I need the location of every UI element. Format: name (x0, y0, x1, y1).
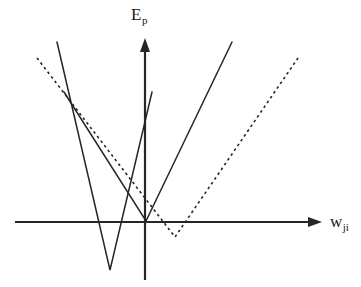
x-axis-label: wji (330, 213, 349, 233)
y-axis-label-subscript: p (142, 14, 148, 26)
x-axis-arrowhead (308, 217, 322, 227)
x-axis-label-subscript: ji (343, 221, 349, 233)
plot-canvas (0, 0, 361, 287)
y-axis-arrowhead (140, 38, 150, 52)
y-axis-label-main: E (131, 5, 141, 24)
energy-parabola-figure: Ep wji (0, 0, 361, 287)
x-axis-label-main: w (330, 212, 342, 231)
curve-medium-parabola-at-origin (64, 42, 232, 221)
y-axis-label: Ep (131, 6, 147, 26)
curve-wide-dashed-parabola (37, 58, 298, 237)
